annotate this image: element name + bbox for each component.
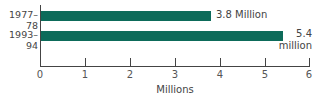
x-tick: [130, 58, 131, 66]
category-label: 1993–94: [0, 29, 38, 51]
x-tick-label: 5: [262, 69, 268, 80]
bar-1977-78: [41, 11, 211, 21]
x-tick-label: 4: [217, 69, 223, 80]
value-label-line: 5.4: [260, 28, 312, 40]
bar-1993-94: [41, 31, 283, 41]
category-label: 1977–78: [0, 9, 38, 31]
value-label-line: million: [260, 40, 312, 52]
x-tick: [309, 58, 310, 66]
x-tick: [85, 58, 86, 66]
x-tick: [175, 58, 176, 66]
x-tick-label: 0: [37, 69, 43, 80]
x-axis-title: Millions: [156, 84, 193, 95]
x-tick-label: 3: [172, 69, 178, 80]
x-tick-label: 1: [82, 69, 88, 80]
x-tick-label: 2: [127, 69, 133, 80]
x-axis-line: [40, 66, 310, 67]
x-tick: [220, 58, 221, 66]
x-tick: [265, 58, 266, 66]
x-tick-label: 6: [306, 69, 312, 80]
value-label: 5.4 million: [260, 28, 312, 52]
value-label: 3.8 Million: [216, 9, 267, 20]
